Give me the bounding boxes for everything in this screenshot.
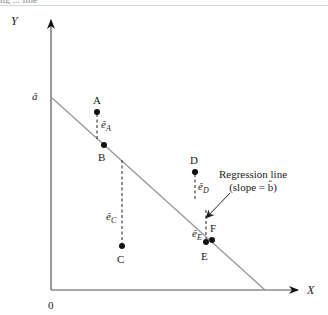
point-e-label: E (201, 250, 208, 262)
point-f-label: F (210, 222, 216, 234)
point-f (209, 237, 215, 243)
point-c-label: C (117, 253, 124, 265)
origin-label: 0 (48, 299, 54, 311)
residual-d-label: êD (198, 180, 209, 195)
residual-c-label: êC (106, 210, 117, 225)
point-d (192, 169, 198, 175)
intercept-label: â (32, 90, 38, 102)
diagram-canvas: Y X 0 â A B C D E F êA êC êD êE Regressi… (0, 0, 328, 315)
regression-pointer-arrow (206, 193, 230, 218)
point-c (119, 243, 125, 249)
y-axis-label: Y (11, 14, 19, 28)
point-e (203, 239, 209, 245)
regression-line-label: Regression line (219, 168, 287, 180)
x-axis-label: X (306, 283, 315, 297)
regression-line (51, 97, 265, 290)
regression-slope-label: (slope = b̂) (229, 180, 277, 194)
point-a (94, 109, 100, 115)
regression-diagram: ng ... line Y X 0 (0, 0, 328, 315)
point-d-label: D (190, 154, 198, 166)
residual-a-label: êA (101, 118, 111, 133)
point-a-label: A (93, 94, 101, 106)
point-b-label: B (98, 151, 105, 163)
point-b (101, 142, 107, 148)
